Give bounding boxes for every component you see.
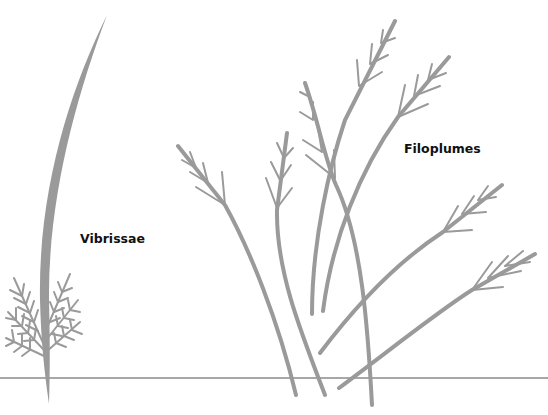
filoplume-4 xyxy=(312,21,395,314)
vibrissae-label: Vibrissae xyxy=(80,231,145,246)
feather-diagram xyxy=(0,0,548,415)
vibrissa-shaft xyxy=(40,15,107,404)
filoplumes-label: Filoplumes xyxy=(404,141,481,156)
filoplumes xyxy=(178,21,535,405)
filoplume-1 xyxy=(178,146,296,395)
filoplume-5 xyxy=(323,57,449,311)
filoplume-7 xyxy=(339,251,535,388)
